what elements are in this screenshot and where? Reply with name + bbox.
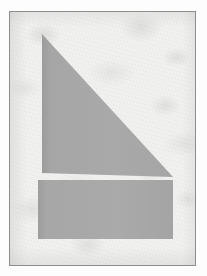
right-triangle bbox=[42, 34, 173, 177]
rectangle-bar bbox=[38, 180, 173, 239]
scanned-paper-plate bbox=[9, 11, 196, 266]
screenshot-root bbox=[0, 0, 207, 276]
geometric-figure-svg bbox=[10, 12, 195, 265]
figure-layer bbox=[10, 12, 195, 265]
